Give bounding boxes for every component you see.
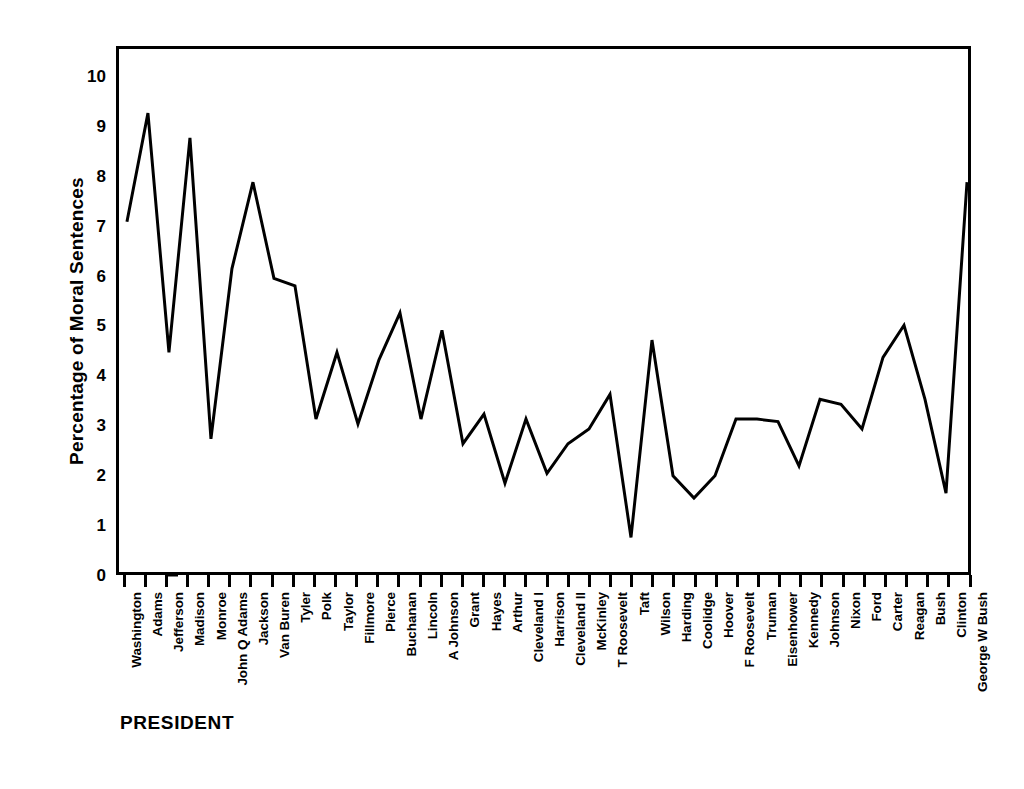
x-tick-label: Madison: [192, 592, 207, 646]
x-tick-label: Hayes: [489, 592, 504, 631]
x-tick-mark: [376, 575, 379, 587]
x-tick-mark: [567, 575, 570, 587]
x-tick-label: Grant: [467, 592, 482, 628]
x-tick-mark: [969, 575, 972, 587]
x-tick-label: Tyler: [298, 592, 313, 623]
x-tick-mark: [313, 575, 316, 587]
x-tick-label: T Roosevelt: [615, 592, 630, 667]
x-tick-label: Cleveland I: [531, 592, 546, 662]
x-tick-label: Van Buren: [277, 592, 292, 658]
x-tick-mark: [334, 575, 337, 587]
x-tick-mark: [292, 575, 295, 587]
x-tick-mark: [228, 575, 231, 587]
y-tick-label: 4: [72, 367, 106, 384]
x-tick-mark: [842, 575, 845, 587]
x-tick-mark: [524, 575, 527, 587]
x-tick-label: Carter: [890, 592, 905, 631]
y-tick-label: 2: [72, 467, 106, 484]
x-tick-mark: [419, 575, 422, 587]
x-tick-mark: [397, 575, 400, 587]
chart-figure: Percentage of Moral Sentences 0123456789…: [0, 0, 1024, 789]
x-tick-label: Wilson: [658, 592, 673, 636]
x-tick-label: Lincoln: [425, 592, 440, 639]
x-tick-mark: [186, 575, 189, 587]
x-tick-label: Ford: [869, 592, 884, 622]
x-tick-label: Coolidge: [700, 592, 715, 649]
y-tick-label: 8: [72, 167, 106, 184]
x-tick-mark: [588, 575, 591, 587]
x-tick-mark: [778, 575, 781, 587]
x-tick-label: Fillmore: [362, 592, 377, 644]
x-tick-label: Harrison: [552, 592, 567, 647]
x-tick-label: George W Bush: [975, 592, 990, 692]
x-tick-mark: [926, 575, 929, 587]
x-tick-mark: [144, 575, 147, 587]
x-tick-label: Cleveland II: [573, 592, 588, 666]
x-tick-label: F Roosevelt: [742, 592, 757, 667]
x-tick-mark: [715, 575, 718, 587]
x-tick-mark: [630, 575, 633, 587]
x-tick-mark: [694, 575, 697, 587]
x-tick-mark: [609, 575, 612, 587]
x-tick-mark: [736, 575, 739, 587]
x-tick-mark: [884, 575, 887, 587]
y-tick-label: 6: [72, 267, 106, 284]
x-tick-label: Bush: [933, 592, 948, 625]
data-line-svg: [119, 49, 968, 572]
x-tick-mark: [863, 575, 866, 587]
x-tick-label: Taft: [637, 592, 652, 615]
x-tick-mark: [207, 575, 210, 587]
plot-area: [116, 46, 971, 575]
x-tick-label: A Johnson: [446, 592, 461, 660]
x-tick-label: Clinton: [954, 592, 969, 638]
x-tick-label: Johnson: [827, 592, 842, 648]
x-tick-mark: [440, 575, 443, 587]
x-tick-mark: [546, 575, 549, 587]
x-tick-label: Arthur: [510, 592, 525, 633]
x-tick-mark: [503, 575, 506, 587]
x-tick-label: Buchanan: [404, 592, 419, 656]
y-tick-label: 1: [72, 517, 106, 534]
x-tick-mark: [271, 575, 274, 587]
y-tick-label: 0: [72, 567, 106, 584]
x-tick-label: Adams: [150, 592, 165, 637]
x-tick-label: McKinley: [594, 592, 609, 650]
x-tick-label: Hoover: [721, 592, 736, 638]
y-tick-label: 5: [72, 317, 106, 334]
x-tick-label: Monroe: [214, 592, 229, 640]
x-tick-label: Harding: [679, 592, 694, 642]
x-tick-mark: [799, 575, 802, 587]
x-tick-mark: [482, 575, 485, 587]
x-tick-mark: [355, 575, 358, 587]
x-tick-mark: [947, 575, 950, 587]
x-tick-mark: [820, 575, 823, 587]
x-tick-label: Jefferson: [171, 592, 186, 652]
x-tick-label: Washington: [129, 592, 144, 668]
x-tick-mark: [757, 575, 760, 587]
x-tick-label: Eisenhower: [785, 592, 800, 667]
x-tick-label: Pierce: [383, 592, 398, 632]
x-axis-title: PRESIDENT: [120, 712, 234, 734]
x-tick-label: Jackson: [256, 592, 271, 645]
x-tick-label: Truman: [764, 592, 779, 640]
x-tick-mark: [249, 575, 252, 587]
y-tick-label: 7: [72, 217, 106, 234]
y-tick-label: 3: [72, 417, 106, 434]
x-tick-label: John Q Adams: [235, 592, 250, 686]
x-tick-mark: [123, 575, 126, 587]
y-tick-label: 9: [72, 117, 106, 134]
moral-sentences-line: [127, 113, 967, 537]
x-tick-label: Nixon: [848, 592, 863, 629]
x-tick-mark: [672, 575, 675, 587]
y-axis-tick-labels: 012345678910: [60, 0, 106, 789]
x-tick-label: Polk: [319, 592, 334, 620]
x-tick-label: Reagan: [912, 592, 927, 640]
x-tick-label: Taylor: [341, 592, 356, 631]
x-tick-label: Kennedy: [806, 592, 821, 648]
x-tick-mark: [651, 575, 654, 587]
x-tick-mark: [461, 575, 464, 587]
y-tick-label: 10: [72, 67, 106, 84]
x-tick-mark: [165, 575, 168, 587]
x-tick-mark: [905, 575, 908, 587]
